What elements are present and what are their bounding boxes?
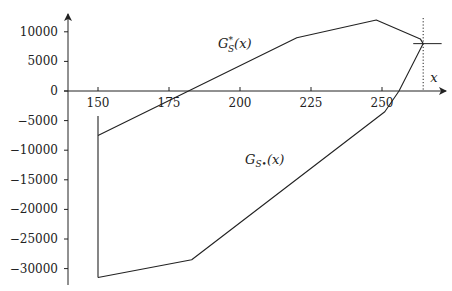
x-tick-label: 150 [87, 96, 110, 110]
axes [64, 14, 446, 285]
x-tick-label: 175 [158, 96, 181, 110]
y-ticks: 1000050000−5000−10000−15000−20000−25000−… [10, 25, 68, 276]
curve-label-0: G*S(x) [218, 35, 252, 54]
x-tick-label: 225 [300, 96, 323, 110]
y-tick-label: −15000 [10, 173, 58, 187]
x-tick-label: 250 [371, 96, 394, 110]
y-tick-label: −5000 [17, 114, 58, 128]
series [98, 20, 423, 278]
y-tick-label: −30000 [10, 262, 58, 276]
chart: 1000050000−5000−10000−15000−20000−25000−… [0, 0, 452, 291]
y-tick-label: −10000 [10, 143, 58, 157]
y-tick-label: 10000 [20, 25, 58, 39]
x-ticks: 150175200225250 [87, 87, 394, 110]
x-tick-label: 200 [229, 96, 252, 110]
y-tick-label: 5000 [27, 54, 58, 68]
y-tick-label: 0 [50, 84, 58, 98]
curve-label-1: GS•(x) [245, 152, 284, 169]
series-line-0 [98, 20, 423, 135]
x-axis-label: x [430, 70, 438, 85]
y-tick-label: −25000 [10, 232, 58, 246]
y-tick-label: −20000 [10, 202, 58, 216]
